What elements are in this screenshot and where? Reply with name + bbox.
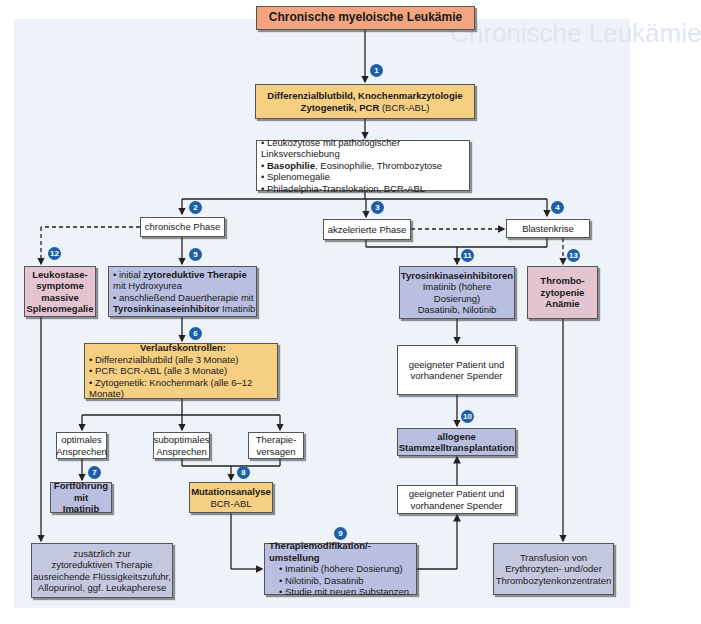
diagnostics-box: Differenzialblutbild, Knochenmarkzytolog… [255,84,475,119]
step-badge-1: 1 [370,64,383,77]
follow-up-item: PCR: BCR-ABL (alle 3 Monate) [89,365,277,377]
step-badge-2: 2 [189,201,202,214]
transfusion-box: Transfusion vonErythrozyten- und/oderThr… [493,543,614,595]
step-badge-7: 7 [88,466,101,479]
step-badge-12: 12 [48,247,61,260]
modification-item: Nilotinib, Dasatinib [279,575,409,587]
step-badge-3: 3 [371,201,384,214]
step-badge-13: 13 [567,249,580,262]
step-badge-9: 9 [334,527,347,540]
step-badge-5: 5 [189,248,202,261]
follow-up-box: Verlaufskontrollen: Differenzialblutbild… [84,343,278,399]
optimal-response-box: optimalesAnsprechen [56,432,107,459]
therapy-modification-box: Therapiemodifikation/-umstellung Imatini… [264,543,417,595]
chronic-phase-box: chronische Phase [140,217,225,237]
accelerated-phase-box: akzelerierte Phase [323,219,411,240]
finding-item: Splenomegalie [261,171,469,183]
cytoreductive-therapy-box: • initial zytoreduktive Therapie mit Hyd… [108,266,257,317]
suitable-donor-box-1: geeigneter Patient undvorhandener Spende… [397,345,516,395]
continue-imatinib-box: Fortführung mitImatinib [50,482,112,513]
suitable-donor-box-2: geeigneter Patient undvorhandener Spende… [397,485,516,514]
follow-up-item: Zytogenetik: Knochenmark (alle 6–12 Mona… [89,377,277,400]
stem-cell-transplant-box: allogeneStammzelltransplantation [397,428,516,456]
modification-item: Studie mit neuen Substanzen [279,586,409,598]
step-badge-11: 11 [461,249,474,262]
tki-box: TyrosinkinaseinhibitorenImatinib (höhere… [399,266,515,319]
follow-up-item: Differenzialblutbild (alle 3 Monate) [89,354,277,366]
step-badge-6: 6 [189,327,202,340]
finding-item: Leukozytose mit pathologischer Linksvers… [261,137,469,160]
thrombocytopenia-box: Thrombo-zytopenieAnämie [527,266,598,319]
blast-crisis-box: Blastenkrise [506,219,590,238]
diagnostics-line2-rest: (BCR-ABL) [379,102,429,113]
mutation-analysis-box: MutationsanalyseBCR-ABL [189,482,273,513]
findings-box: Leukozytose mit pathologischer Linksvers… [256,140,470,191]
leukostasis-box: Leukostase-symptomemassiveSplenomegalie [24,266,96,317]
modification-item: Imatinib (höhere Dosierung) [279,563,409,575]
title-text: Chronische myeloische Leukämie [269,12,462,24]
supportive-therapy-box: zusätzlich zurzytoreduktiven Therapieaus… [31,543,173,598]
step-badge-8: 8 [237,466,250,479]
suboptimal-response-box: suboptimalesAnsprechen [153,432,210,459]
step-badge-4: 4 [551,201,564,214]
title-box: Chronische myeloische Leukämie [256,6,475,30]
finding-item: Basophilie, Eosinophilie, Thrombozytose [261,160,469,172]
diagnostics-line2-bold: Zytogenetik, PCR [301,102,380,113]
step-badge-10: 10 [461,410,474,423]
diagnostics-line1: Differenzialblutbild, Knochenmarkzytolog… [267,90,462,102]
therapy-failure-box: Therapie-versagen [248,432,304,459]
finding-item: Philadelphia-Translokation, BCR-ABL [261,183,469,195]
